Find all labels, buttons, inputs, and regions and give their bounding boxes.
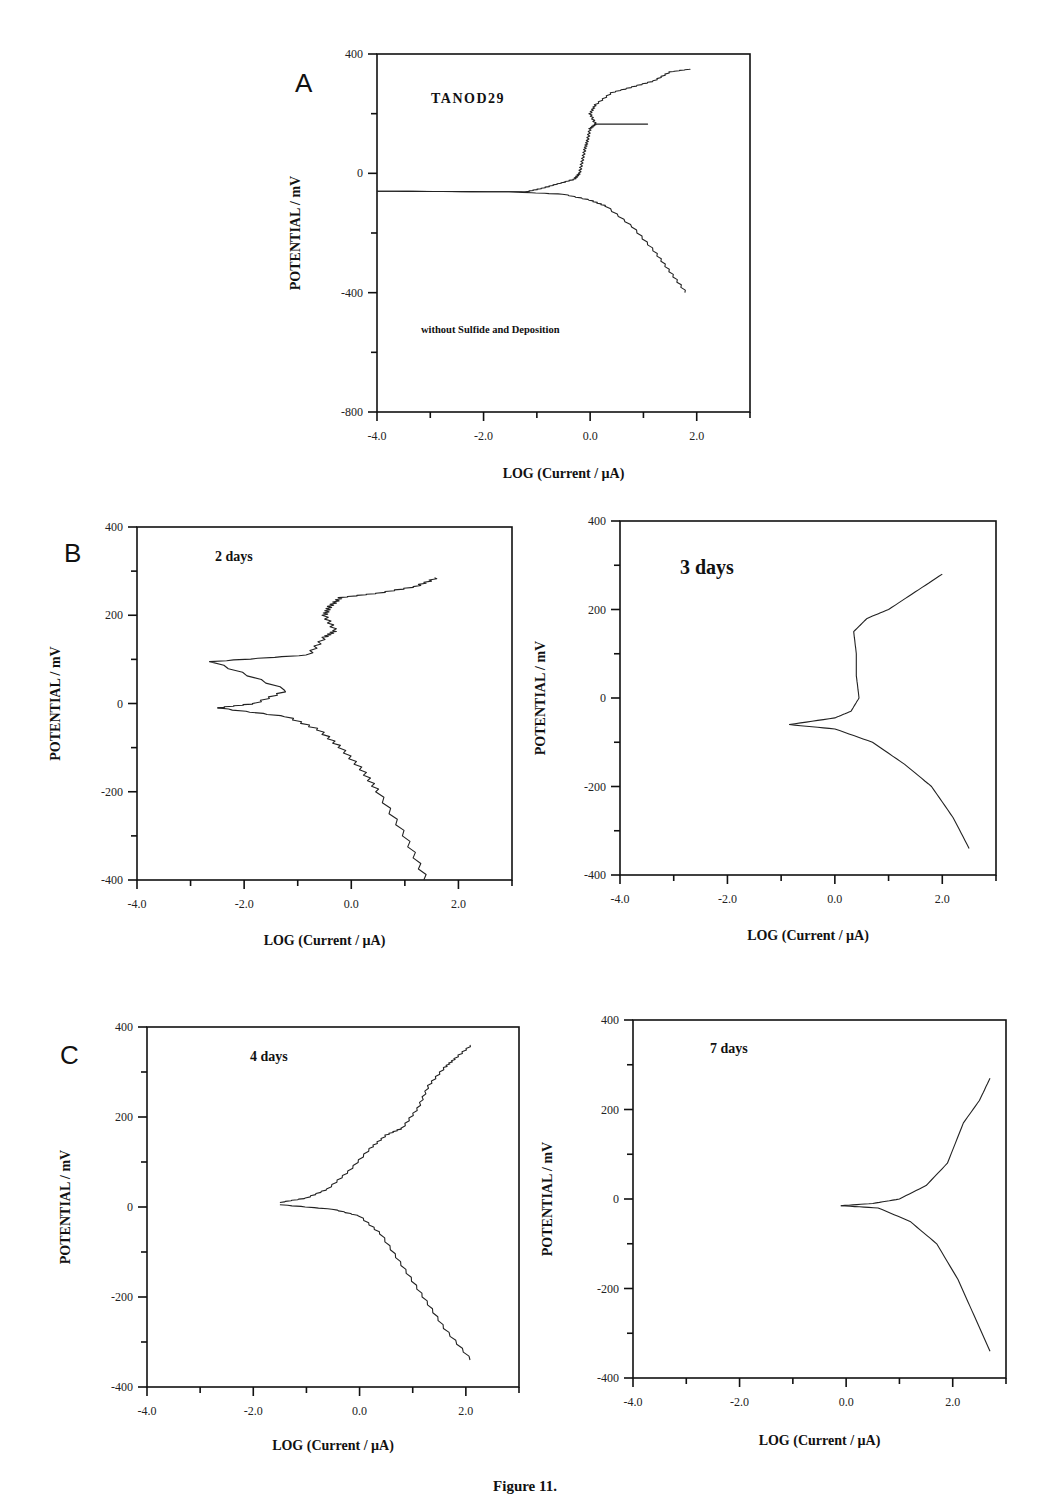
x-tick-label: 2.0 [945, 1395, 960, 1409]
x-tick-label: -4.0 [624, 1395, 643, 1409]
series-anodic [841, 1078, 990, 1206]
plot-frame [633, 1020, 1006, 1378]
chart-title: 7 days [710, 1041, 748, 1056]
y-tick-label: -400 [597, 1371, 619, 1385]
y-tick-label: 400 [601, 1013, 619, 1027]
chart-svg: -4.0-2.00.02.04002000-200-400LOG (Curren… [0, 0, 1050, 1504]
y-tick-label: 0 [613, 1192, 619, 1206]
x-tick-label: 0.0 [839, 1395, 854, 1409]
y-axis-title: POTENTIAL / mV [540, 1142, 555, 1256]
figure-caption: Figure 11. [0, 1478, 1050, 1495]
x-tick-label: -2.0 [730, 1395, 749, 1409]
y-tick-label: -200 [597, 1282, 619, 1296]
x-axis-title: LOG (Current / µA) [759, 1433, 881, 1449]
y-tick-label: 200 [601, 1103, 619, 1117]
series-cathodic [841, 1206, 990, 1352]
